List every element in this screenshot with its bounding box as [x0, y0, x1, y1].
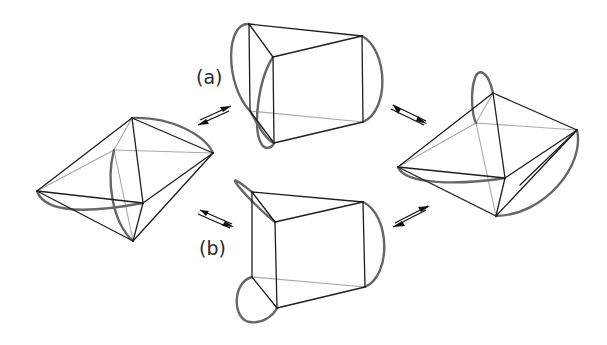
equilibrium-arrow-left-top [198, 106, 231, 125]
pathway-label-a: (a) [196, 66, 222, 88]
top-prism-a [231, 24, 382, 148]
pathway-label-b: (b) [199, 237, 226, 259]
diagram-canvas: (a) (b) [0, 0, 607, 345]
equilibrium-arrow-left-bottom [198, 210, 234, 228]
equilibrium-arrow-top-right [391, 105, 427, 125]
left-polyhedron [37, 118, 213, 241]
equilibrium-arrow-bottom-right [393, 206, 430, 227]
right-polyhedron [398, 72, 578, 216]
bottom-prism-b [235, 180, 384, 322]
